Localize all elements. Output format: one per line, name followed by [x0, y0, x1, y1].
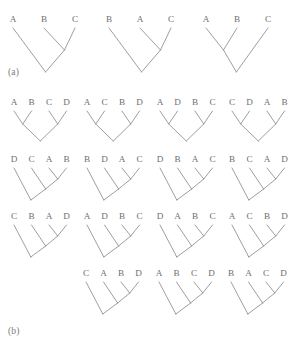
- branch-tip-0: [160, 111, 169, 124]
- branch-tip-0: [160, 225, 177, 257]
- branch-tip-2: [49, 225, 58, 236]
- taxon-label-a1-2: C: [72, 14, 78, 24]
- phylogenetic-tree-figure: ABCBACABCABCDACBDADBCCDABDCABBDACDBACBCA…: [0, 0, 304, 347]
- taxon-label-b11-1: A: [174, 211, 181, 221]
- branch-internal-2: [177, 189, 192, 200]
- branch-tip-2: [195, 225, 204, 236]
- taxon-label-b5-0: D: [11, 154, 18, 164]
- branch-tip-3: [275, 282, 284, 293]
- branch-internal-right: [186, 124, 204, 141]
- branch-tip-0: [109, 28, 142, 72]
- branch-internal-2: [103, 303, 118, 314]
- taxon-label-b13-1: A: [100, 268, 107, 278]
- branch-internal-1: [191, 293, 203, 303]
- branch-internal: [142, 50, 161, 72]
- branch-tip-1: [105, 225, 119, 246]
- branch-tip-1: [177, 282, 191, 303]
- branch-tip-0: [232, 111, 241, 124]
- branch-internal-1: [263, 293, 275, 303]
- branch-internal-right: [258, 124, 276, 141]
- branch-internal-1: [264, 236, 276, 246]
- branch-tip-3: [131, 225, 140, 236]
- branch-tip-1: [241, 111, 250, 124]
- taxon-label-b8-2: A: [264, 154, 271, 164]
- taxon-label-b1-2: C: [46, 97, 52, 107]
- branch-tip-0: [232, 225, 249, 257]
- branch-internal-1: [192, 179, 204, 189]
- branch-tip-2: [267, 225, 276, 236]
- taxon-label-b5-2: A: [46, 154, 53, 164]
- branch-tip-1: [23, 111, 32, 124]
- taxon-label-a3-1: B: [234, 14, 240, 24]
- taxon-label-a3-0: A: [203, 14, 210, 24]
- branch-tip-3: [58, 111, 67, 124]
- taxon-label-b3-3: C: [209, 97, 215, 107]
- taxon-label-b5-1: C: [28, 154, 34, 164]
- branch-tip-1: [44, 28, 65, 50]
- branch-tip-1: [250, 168, 264, 189]
- branch-tip-1: [32, 168, 46, 189]
- taxon-label-b3-1: D: [174, 97, 181, 107]
- branch-internal-1: [264, 179, 276, 189]
- taxon-label-b14-3: D: [208, 268, 215, 278]
- branch-tip-0: [14, 168, 31, 200]
- branch-tip-2: [194, 282, 203, 293]
- taxon-label-b8-1: C: [246, 154, 252, 164]
- branch-internal-2: [104, 189, 119, 200]
- taxon-label-b2-1: C: [101, 97, 107, 107]
- branch-internal-left: [23, 124, 41, 141]
- branch-tip-0: [14, 111, 23, 124]
- branch-tip-3: [131, 111, 140, 124]
- branch-tip-2: [122, 168, 131, 179]
- branch-tip-2: [65, 28, 76, 50]
- taxon-label-a1-0: A: [10, 14, 17, 24]
- branch-tip-1: [169, 111, 178, 124]
- taxon-label-b9-1: B: [28, 211, 34, 221]
- taxon-label-b15-3: D: [280, 268, 287, 278]
- taxon-label-b6-3: C: [136, 154, 142, 164]
- branch-tip-1: [178, 168, 192, 189]
- taxon-label-b3-2: B: [192, 97, 198, 107]
- branch-internal-2: [248, 303, 263, 314]
- branch-internal-2: [31, 246, 46, 257]
- branch-tip-2: [121, 282, 130, 293]
- branch-tip-0: [206, 28, 224, 50]
- branch-tip-0: [14, 225, 31, 257]
- branch-tip-3: [58, 225, 67, 236]
- taxon-label-b11-2: B: [192, 211, 198, 221]
- taxon-label-b15-2: C: [263, 268, 269, 278]
- branch-tip-2: [266, 282, 275, 293]
- branch-tip-0: [87, 168, 104, 200]
- branch-tip-3: [204, 111, 213, 124]
- taxon-label-a2-0: B: [106, 14, 112, 24]
- branch-internal: [224, 50, 237, 72]
- taxon-label-b12-2: B: [264, 211, 270, 221]
- taxon-label-b13-3: D: [135, 268, 142, 278]
- branch-tip-1: [250, 225, 264, 246]
- branch-tip-3: [131, 168, 140, 179]
- branch-internal-2: [104, 246, 119, 257]
- taxon-label-b15-0: B: [228, 268, 234, 278]
- taxon-label-a2-1: A: [137, 14, 144, 24]
- taxon-label-b14-1: B: [173, 268, 179, 278]
- taxon-label-a3-2: C: [265, 14, 271, 24]
- taxon-label-b10-1: D: [101, 211, 108, 221]
- branch-tip-0: [86, 282, 103, 314]
- branch-tip-2: [267, 111, 276, 124]
- branch-tip-3: [130, 282, 139, 293]
- taxon-label-b4-1: D: [246, 97, 253, 107]
- taxon-label-b13-2: B: [118, 268, 124, 278]
- taxon-label-b10-0: A: [84, 211, 91, 221]
- taxon-label-b10-3: C: [136, 211, 142, 221]
- taxon-label-b6-0: B: [84, 154, 90, 164]
- taxon-label-b2-2: B: [119, 97, 125, 107]
- taxon-label-b7-1: B: [174, 154, 180, 164]
- panel-label-a: (a): [8, 67, 19, 77]
- branch-tip-1: [104, 282, 118, 303]
- branch-tip-2: [267, 168, 276, 179]
- taxon-label-b11-0: D: [157, 211, 164, 221]
- branch-internal-2: [31, 189, 46, 200]
- taxon-label-b1-3: D: [63, 97, 70, 107]
- branch-internal-2: [249, 189, 264, 200]
- taxon-label-b9-2: A: [46, 211, 53, 221]
